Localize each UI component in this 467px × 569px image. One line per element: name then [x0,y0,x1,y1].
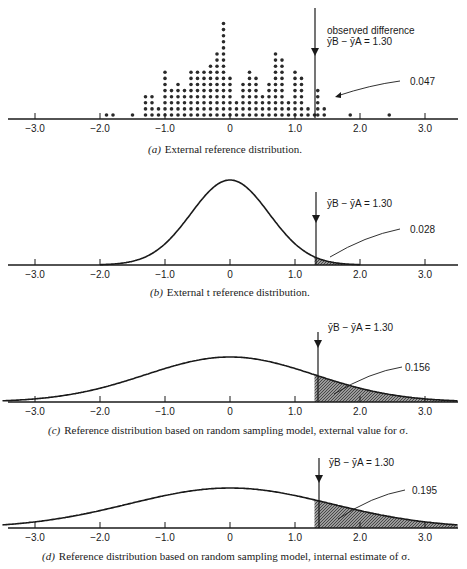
dot [322,107,326,111]
svg-text:(c)Reference distribution base: (c)Reference distribution based on rando… [48,424,408,437]
tick-label: 0 [227,269,233,280]
dot [228,89,232,93]
dot [209,77,213,81]
dot [293,107,297,111]
dot [248,113,252,117]
dot [163,71,167,75]
arrow-head-icon [311,48,319,56]
dot [316,101,320,105]
tick-label: 3.0 [418,123,432,134]
dot [183,107,187,111]
dot [222,89,226,93]
observed-difference-formula: ȳB − ȳA = 1.30 [328,322,393,333]
dot [300,101,304,105]
dot [300,83,304,87]
dot [241,101,245,105]
dot [267,101,271,105]
dot [241,113,245,117]
dot [170,113,174,117]
dot [189,77,193,81]
dot [176,95,180,99]
dot [222,113,226,117]
dot [274,107,278,111]
dot [274,52,278,56]
dot [241,107,245,111]
dot [248,89,252,93]
dot [254,113,258,117]
dot [222,52,226,56]
dot [280,113,284,117]
tick-label: −1.0 [155,123,175,134]
tick-label: −2.0 [90,532,110,543]
tick-label: 3.0 [418,406,432,417]
dot [222,83,226,87]
arrow-head-icon [314,340,322,348]
dot [105,113,109,117]
dot [196,95,200,99]
svg-text:(a)External reference distribu: (a)External reference distribution. [148,143,302,156]
dot [316,107,320,111]
dot [131,113,135,117]
dot [254,89,258,93]
dot [274,101,278,105]
dot [300,89,304,93]
panel-d: −3.0−2.0−1.001.02.03.0 ȳB − ȳA = 1.30 0.… [3,457,459,563]
dot [222,101,226,105]
tick-label: −2.0 [90,123,110,134]
dot [189,89,193,93]
dot [183,95,187,99]
dot [202,83,206,87]
tick-label: 1.0 [288,123,302,134]
dot [293,101,297,105]
svg-text:(d)Reference distribution base: (d)Reference distribution based on rando… [42,550,410,563]
dot [202,113,206,117]
dot [228,77,232,81]
tail-probability-label: 0.047 [410,76,435,87]
dot [280,83,284,87]
dot [248,77,252,81]
dot [196,71,200,75]
dot [235,107,239,111]
dot [267,89,271,93]
tick-label: −2.0 [90,406,110,417]
dot [254,77,258,81]
dot [202,95,206,99]
dot [300,77,304,81]
dot [144,101,148,105]
tail-probability-label: 0.195 [412,485,437,496]
dot [280,58,284,62]
caption-letter: (d) [42,550,55,563]
dot [189,107,193,111]
dot [202,77,206,81]
dot [222,40,226,44]
tail-area [315,375,458,402]
dot [209,95,213,99]
dot [196,83,200,87]
dot [196,77,200,81]
dot [261,101,265,105]
dot [170,89,174,93]
dot [209,113,213,117]
tick-label: −3.0 [25,269,45,280]
caption-letter: (b) [150,286,163,299]
dot [287,101,291,105]
dot [196,107,200,111]
dot [274,83,278,87]
dot [215,58,219,62]
caption-letter: (a) [148,143,161,156]
dot [222,71,226,75]
tail-probability-label: 0.028 [410,224,435,235]
dot [254,95,258,99]
dot [183,113,187,117]
dot [228,83,232,87]
dot [176,113,180,117]
tick-label: 0 [227,406,233,417]
dot [293,95,297,99]
tick-label: −3.0 [25,532,45,543]
dot [280,77,284,81]
dot [241,95,245,99]
dot [293,89,297,93]
tail-probability-label: 0.156 [405,362,430,373]
dot [176,107,180,111]
dot [215,101,219,105]
